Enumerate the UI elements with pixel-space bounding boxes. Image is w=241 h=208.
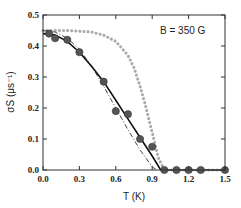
data-point xyxy=(124,111,131,118)
x-tick-label: 1.2 xyxy=(183,174,195,184)
dotted-gray-curve-line xyxy=(43,31,225,171)
y-tick-label: 0.4 xyxy=(28,41,40,51)
data-point xyxy=(76,49,83,56)
y-tick-label: 0.2 xyxy=(28,103,40,113)
x-tick-label: 1.5 xyxy=(219,174,231,184)
x-tick-label: 0.0 xyxy=(37,174,49,184)
data-point xyxy=(52,35,59,42)
y-axis-title: σS (μs⁻¹) xyxy=(5,71,16,112)
x-axis-title: T (K) xyxy=(123,191,145,202)
data-point xyxy=(149,143,156,150)
data-point xyxy=(100,78,107,85)
chart: 0.00.30.60.91.21.5 0.00.10.20.30.40.5 B … xyxy=(0,0,241,208)
y-tick-label: 0.5 xyxy=(28,10,40,20)
y-tick-label: 0.0 xyxy=(28,165,40,175)
x-tick-label: 0.9 xyxy=(147,174,159,184)
data-point xyxy=(112,108,119,115)
y-tick-label: 0.1 xyxy=(28,134,40,144)
x-tick-label: 0.6 xyxy=(110,174,122,184)
dash-dot-fit-line xyxy=(43,31,157,171)
data-point xyxy=(136,135,143,142)
plot-series xyxy=(43,30,229,174)
data-point xyxy=(64,36,71,43)
solid-fit-line xyxy=(43,34,225,170)
x-tick-label: 0.3 xyxy=(74,174,86,184)
y-tick-label: 0.3 xyxy=(28,72,40,82)
field-annotation: B = 350 G xyxy=(160,25,206,36)
data-point xyxy=(45,30,52,37)
